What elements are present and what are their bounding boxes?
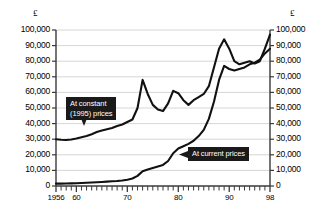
y-tick-label-right: 10,000 [276, 164, 324, 174]
x-tick-label: 60 [61, 193, 91, 202]
y-tick-label-right: 70,000 [276, 71, 324, 81]
series-line [56, 35, 270, 140]
y-tick-label-right: 20,000 [276, 149, 324, 159]
y-tick-label-left: 90,000 [2, 40, 50, 50]
annotation-at-constant-prices: At constant (1995) prices [66, 97, 116, 120]
x-tick-marks [56, 186, 270, 192]
annotation-at-current-prices: At current prices [188, 147, 249, 161]
y-tick-label-left: 80,000 [2, 55, 50, 65]
x-tick-label: 70 [112, 193, 142, 202]
y-tick-label-left: 40,000 [2, 118, 50, 128]
line-chart: £ £ 100,00090,00080,00070,00060,00050,00… [0, 0, 330, 221]
y-tick-label-right: 80,000 [276, 55, 324, 65]
x-tick-label: 98 [255, 193, 285, 202]
y-tick-label-left: 30,000 [2, 133, 50, 143]
y-tick-label-left: 60,000 [2, 86, 50, 96]
y-tick-label-left: 100,000 [2, 24, 50, 34]
y-tick-label-left: 70,000 [2, 71, 50, 81]
x-tick-label: 90 [214, 193, 244, 202]
callout-tails [80, 116, 188, 158]
y-tick-label-right: 90,000 [276, 40, 324, 50]
y-tick-label-right: 100,000 [276, 24, 324, 34]
y-tick-label-left: 20,000 [2, 149, 50, 159]
y-tick-label-right: 40,000 [276, 118, 324, 128]
y-tick-label-right: 50,000 [276, 102, 324, 112]
y-tick-label-left: 0 [2, 180, 50, 190]
y-tick-label-left: 50,000 [2, 102, 50, 112]
y-tick-label-right: 0 [276, 180, 324, 190]
y-tick-label-right: 60,000 [276, 86, 324, 96]
x-tick-label: 80 [163, 193, 193, 202]
y-tick-label-left: 10,000 [2, 164, 50, 174]
y-tick-label-right: 30,000 [276, 133, 324, 143]
